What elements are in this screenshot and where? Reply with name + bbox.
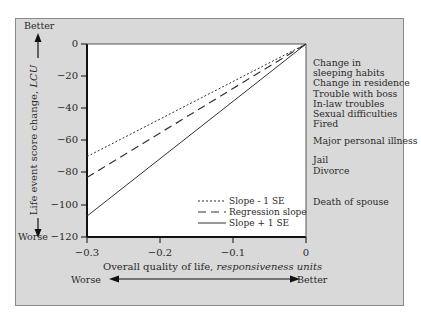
event-label: Major personal illness: [313, 136, 418, 147]
series-slope-plus-1se: [87, 44, 306, 216]
y-tick-label: −20: [48, 70, 78, 81]
x-tick-label: −0.3: [72, 247, 102, 258]
x-tick-label: −0.2: [145, 247, 175, 258]
y-worse-label: Worse: [18, 231, 48, 242]
x-axis-title: Overall quality of life, responsiveness …: [103, 261, 322, 272]
x-axis-title-unit: responsiveness units: [216, 261, 322, 272]
x-axis-title-main: Overall quality of life,: [103, 261, 216, 272]
series-regression-slope: [87, 44, 306, 178]
event-label: Divorce: [313, 166, 349, 177]
x-left-arrow-icon: [109, 276, 119, 283]
y-tick-label: 0: [48, 38, 78, 49]
event-label: Change in residence: [313, 78, 410, 89]
x-tick-label: 0: [291, 247, 321, 258]
y-tick-label: −60: [48, 134, 78, 145]
y-axis-title-main: Life event score change,: [28, 88, 39, 216]
y-tick-label: −80: [48, 166, 78, 177]
y-up-arrow-icon: [35, 33, 42, 42]
series-slope-minus-1se: [87, 44, 306, 157]
x-worse-label: Worse: [71, 274, 101, 285]
y-axis-title-unit: LCU: [28, 65, 39, 88]
x-better-label: Better: [297, 274, 327, 285]
legend-item-slope-minus-1se: Slope - 1 SE: [229, 196, 285, 206]
event-label: Jail: [313, 155, 328, 166]
y-tick-label: −40: [48, 102, 78, 113]
legend-item-regression-slope: Regression slope: [229, 207, 307, 217]
event-label: Death of spouse: [313, 197, 389, 208]
legend-item-slope-plus-1se: Slope + 1 SE: [229, 218, 289, 228]
event-label: Fired: [313, 119, 338, 130]
y-tick-label: −120: [48, 231, 78, 242]
y-axis-title: Life event score change, LCU: [28, 65, 39, 215]
y-tick-label: −100: [48, 199, 78, 210]
x-tick-label: −0.1: [218, 247, 248, 258]
y-better-label: Better: [24, 20, 54, 31]
